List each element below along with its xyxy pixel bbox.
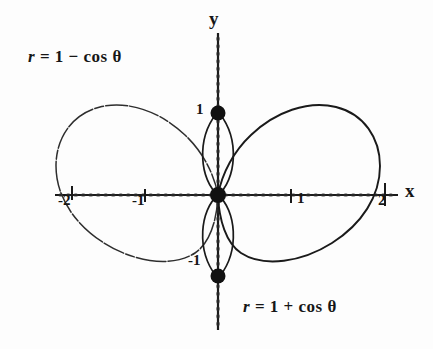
- annotation-right-equation: r = 1 + cos θ: [243, 297, 337, 317]
- x-axis: [55, 183, 398, 206]
- annotation-right-var: r: [243, 297, 250, 316]
- y-tick-label-pos1: 1: [196, 101, 204, 118]
- x-tick-label-neg1: -1: [132, 192, 145, 209]
- annotation-left-equals: =: [40, 47, 50, 66]
- annotation-left-equation: r = 1 − cos θ: [28, 47, 122, 67]
- figure-canvas: r = 1 − cos θ r = 1 + cos θ y x -2 -1 1 …: [0, 0, 433, 349]
- y-tick-label-neg1: -1: [188, 252, 201, 269]
- annotation-left-var: r: [28, 47, 35, 66]
- point-marker-0-neg1: [211, 269, 226, 284]
- annotation-right-equals: =: [255, 297, 265, 316]
- curve-left-cardioid: [56, 105, 218, 261]
- y-axis-label: y: [209, 8, 219, 30]
- x-axis-label: x: [405, 180, 415, 202]
- point-marker-0-1: [211, 106, 226, 121]
- annotation-left-body: 1 − cos θ: [55, 47, 122, 66]
- curve-right-cardioid: [218, 105, 380, 261]
- point-marker-origin: [210, 187, 226, 203]
- x-tick-label-neg2: -2: [58, 192, 71, 209]
- annotation-right-body: 1 + cos θ: [270, 297, 337, 316]
- x-tick-label-pos1: 1: [297, 190, 305, 207]
- x-tick-label-pos2: 2: [378, 192, 386, 209]
